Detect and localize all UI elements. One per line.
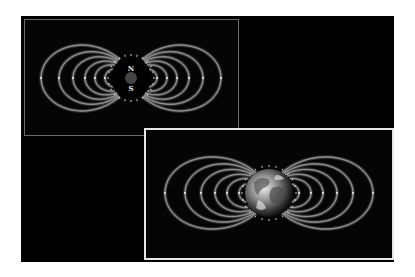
field-marker [220, 77, 222, 79]
field-arrow [137, 55, 138, 57]
magnet-core [125, 72, 137, 84]
field-arrow [152, 84, 154, 85]
field-marker [72, 77, 74, 79]
earth-sphere [245, 169, 293, 217]
field-arrow [125, 99, 126, 101]
field-arrow [276, 218, 277, 220]
earth-field-panel [144, 128, 394, 260]
field-marker [176, 77, 178, 79]
dipole-field-diagram: N S [25, 20, 238, 135]
field-marker [164, 192, 166, 194]
field-arrow [262, 218, 263, 220]
field-arrow [242, 200, 244, 201]
field-marker [94, 77, 96, 79]
earth-field-diagram [146, 130, 392, 258]
field-marker [214, 192, 216, 194]
field-arrow [152, 72, 154, 73]
field-marker [310, 192, 312, 194]
field-arrow [242, 186, 244, 187]
field-marker [372, 192, 374, 194]
field-marker [166, 77, 168, 79]
field-arrow [108, 72, 110, 73]
dipole-field-panel: N S [24, 19, 239, 136]
field-marker [40, 77, 42, 79]
field-marker [238, 192, 240, 194]
field-marker [298, 192, 300, 194]
north-pole-label: N [128, 64, 135, 73]
field-marker [202, 77, 204, 79]
field-arrow [125, 55, 126, 57]
field-marker [226, 192, 228, 194]
south-pole-label: S [128, 84, 133, 93]
field-arrow [262, 166, 263, 168]
earth-globe [245, 169, 293, 217]
field-marker [200, 192, 202, 194]
field-marker [188, 77, 190, 79]
field-arrow [276, 166, 277, 168]
field-arrow [294, 200, 296, 201]
field-marker [156, 77, 158, 79]
field-arrow [108, 84, 110, 85]
field-marker [104, 77, 106, 79]
field-arrow [137, 99, 138, 101]
field-marker [84, 77, 86, 79]
field-marker [336, 192, 338, 194]
field-marker [322, 192, 324, 194]
field-marker [58, 77, 60, 79]
field-marker [352, 192, 354, 194]
field-arrow [294, 186, 296, 187]
field-marker [184, 192, 186, 194]
